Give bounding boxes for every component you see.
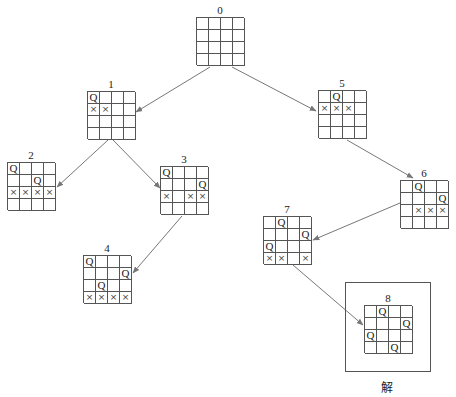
board-cell — [44, 163, 56, 175]
tree-node-2: 2QQ×××× — [7, 162, 55, 210]
board-cell — [221, 30, 233, 42]
board-cell — [112, 92, 124, 104]
tree-node-6: 6QQ××× — [400, 180, 448, 228]
board-cell — [425, 217, 437, 229]
board-cell — [108, 256, 120, 268]
board-cell — [355, 115, 367, 127]
edge-1-to-3 — [113, 140, 160, 188]
board-cell — [8, 175, 20, 187]
board-cell — [221, 18, 233, 30]
edge-0-to-5 — [232, 67, 316, 111]
board-cell — [124, 128, 136, 140]
board-cell — [355, 91, 367, 103]
board-cell — [221, 42, 233, 54]
blocked-cross-icon: × — [20, 187, 32, 199]
board-cell — [276, 241, 288, 253]
edge-0-to-1 — [136, 67, 210, 112]
board-cell — [120, 280, 132, 292]
board-cell — [112, 116, 124, 128]
board-cell — [319, 115, 331, 127]
board-cell — [173, 167, 185, 179]
board-cell — [233, 30, 245, 42]
board-cell — [288, 229, 300, 241]
blocked-cross-icon: × — [276, 253, 288, 265]
node-label: 7 — [263, 203, 311, 215]
board-cell — [44, 199, 56, 211]
board-cell — [355, 103, 367, 115]
board-cell — [319, 91, 331, 103]
blocked-cross-icon: × — [331, 103, 343, 115]
board-cell — [44, 175, 56, 187]
queen-icon: Q — [413, 181, 425, 193]
board-cell — [20, 163, 32, 175]
board-cell — [20, 199, 32, 211]
tree-node-4: 4QQQ×××× — [83, 255, 131, 303]
board-cell — [185, 203, 197, 215]
blocked-cross-icon: × — [88, 104, 100, 116]
chessboard-4x4 — [196, 17, 244, 65]
board-cell — [100, 92, 112, 104]
chessboard-4x4: QQ×××× — [7, 162, 55, 210]
queen-icon: Q — [161, 167, 173, 179]
board-cell — [343, 127, 355, 139]
queen-icon: Q — [84, 256, 96, 268]
edge-6-to-7 — [313, 203, 400, 240]
blocked-cross-icon: × — [108, 292, 120, 304]
tree-node-7: 7QQQ××× — [263, 216, 311, 264]
board-cell — [124, 92, 136, 104]
board-cell — [197, 42, 209, 54]
chessboard-4x4: QQ××× — [400, 180, 448, 228]
queen-icon: Q — [300, 229, 312, 241]
node-label: 4 — [83, 242, 131, 254]
board-cell — [355, 127, 367, 139]
board-cell — [161, 203, 173, 215]
chessboard-4x4: QQQ××× — [263, 216, 311, 264]
board-cell — [233, 18, 245, 30]
board-cell — [276, 229, 288, 241]
chessboard-4x4: Q××× — [318, 90, 366, 138]
board-cell — [112, 128, 124, 140]
node-label: 2 — [7, 149, 55, 161]
blocked-cross-icon: × — [197, 191, 209, 203]
board-cell — [209, 42, 221, 54]
blocked-cross-icon: × — [343, 103, 355, 115]
node-label: 3 — [160, 153, 208, 165]
blocked-cross-icon: × — [84, 292, 96, 304]
node-label: 5 — [318, 77, 366, 89]
board-cell — [221, 54, 233, 66]
blocked-cross-icon: × — [264, 253, 276, 265]
tree-node-1: 1Q×× — [87, 91, 135, 139]
board-cell — [425, 181, 437, 193]
blocked-cross-icon: × — [425, 205, 437, 217]
board-cell — [8, 199, 20, 211]
edge-3-to-4 — [133, 216, 182, 273]
board-cell — [288, 241, 300, 253]
queen-icon: Q — [331, 91, 343, 103]
board-cell — [401, 205, 413, 217]
queen-icon: Q — [276, 217, 288, 229]
board-cell — [173, 179, 185, 191]
board-cell — [209, 54, 221, 66]
board-cell — [197, 54, 209, 66]
board-cell — [264, 217, 276, 229]
queen-icon: Q — [8, 163, 20, 175]
queen-icon: Q — [88, 92, 100, 104]
board-cell — [185, 167, 197, 179]
board-cell — [319, 127, 331, 139]
queen-icon: Q — [32, 175, 44, 187]
board-cell — [84, 268, 96, 280]
board-cell — [197, 203, 209, 215]
blocked-cross-icon: × — [32, 187, 44, 199]
chessboard-4x4: QQ××× — [160, 166, 208, 214]
chessboard-4x4: QQQ×××× — [83, 255, 131, 303]
board-cell — [88, 128, 100, 140]
blocked-cross-icon: × — [100, 104, 112, 116]
solution-highlight-box — [345, 282, 431, 372]
node-label: 6 — [400, 167, 448, 179]
blocked-cross-icon: × — [8, 187, 20, 199]
board-cell — [108, 280, 120, 292]
node-label: 1 — [87, 78, 135, 90]
board-cell — [197, 30, 209, 42]
board-cell — [401, 193, 413, 205]
tree-node-0: 0 — [196, 17, 244, 65]
